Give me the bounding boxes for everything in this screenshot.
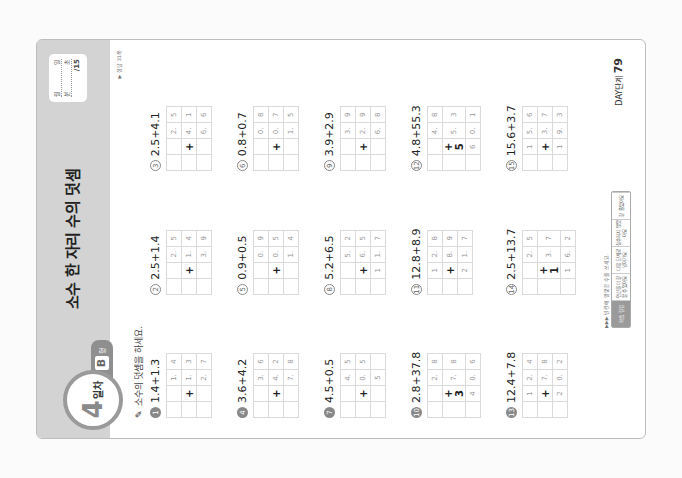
answer-cell[interactable]: 1 [371, 262, 386, 278]
answer-cell[interactable] [197, 262, 212, 278]
answer-cell[interactable]: 5 [284, 107, 299, 123]
vertical-addition-grid: 4.5+0.55 [340, 353, 386, 418]
digit-cell: 4 [167, 354, 182, 370]
answer-cell[interactable] [371, 402, 386, 418]
answer-cell[interactable]: 7 [371, 230, 386, 246]
answer-cell[interactable]: 6 [466, 354, 481, 370]
answer-cell[interactable] [553, 402, 568, 418]
answer-cell[interactable] [197, 278, 212, 294]
answer-cell[interactable] [466, 402, 481, 418]
form-letter: B [95, 356, 109, 370]
digit-cell: 2 [341, 230, 356, 246]
answer-cell[interactable] [371, 354, 386, 370]
answer-cell[interactable] [561, 278, 576, 294]
digit-cell [254, 386, 269, 402]
answer-cell[interactable]: 7 [458, 230, 473, 246]
answer-cell[interactable] [371, 386, 386, 402]
problem-expression: 2.8+37.8 [410, 352, 423, 403]
digit-cell: 8 [443, 354, 466, 370]
problem-15: 1515.6+3.715.6+3.719.3 [505, 48, 576, 171]
digit-cell [428, 386, 443, 402]
digit-cell: + [182, 262, 197, 278]
answer-cell[interactable]: 2 [553, 386, 568, 402]
answer-cell[interactable]: 0. [466, 370, 481, 386]
answer-cell[interactable] [284, 278, 299, 294]
answer-cell[interactable] [284, 386, 299, 402]
answer-cell[interactable] [197, 155, 212, 171]
problem-expression: 3.9+2.9 [323, 112, 336, 156]
score-box: 월일 분초 /15 [49, 54, 87, 102]
digit-cell [182, 155, 197, 171]
digit-cell [341, 155, 356, 171]
answer-cell[interactable]: 3. [197, 246, 212, 262]
problem-number-badge: 13 [506, 407, 517, 418]
answer-cell[interactable] [284, 139, 299, 155]
digit-cell: + 3 [443, 386, 466, 402]
problem-3: 32.5+4.12.5+4.16.6 [149, 48, 212, 171]
answer-cell[interactable] [371, 155, 386, 171]
answer-cell[interactable]: 1 [553, 139, 568, 155]
answer-cell[interactable]: 1 [466, 107, 481, 123]
problem-header: 1515.6+3.7 [505, 48, 518, 171]
answer-cell[interactable]: 1. [284, 246, 299, 262]
answer-cell[interactable]: 8 [284, 354, 299, 370]
problem-header: 60.8+0.7 [236, 48, 249, 171]
answer-cell[interactable]: 1. [458, 246, 473, 262]
answer-cell[interactable] [197, 402, 212, 418]
answer-cell[interactable]: 9 [197, 230, 212, 246]
digit-cell [538, 402, 553, 418]
answer-cell[interactable]: 3 [553, 107, 568, 123]
answer-cell[interactable] [553, 155, 568, 171]
self-check-option[interactable]: 다음 단계로 넘어가요 [612, 246, 630, 273]
problem-expression: 0.8+0.7 [236, 112, 249, 156]
answer-cell[interactable]: 6. [561, 246, 576, 262]
answer-cell[interactable]: 1. [371, 246, 386, 262]
answer-cell[interactable] [284, 155, 299, 171]
answer-cell[interactable]: 7 [197, 354, 212, 370]
answer-cell[interactable]: 1 [561, 262, 576, 278]
answer-cell[interactable] [284, 402, 299, 418]
answer-cell[interactable] [371, 139, 386, 155]
digit-cell: 9 [356, 107, 371, 123]
digit-cell: 2. [523, 246, 538, 262]
self-check-option[interactable]: 잘 풀었어요 [612, 192, 630, 219]
answer-cell[interactable] [284, 262, 299, 278]
answer-cell[interactable]: 2 [458, 262, 473, 278]
problem-header: 85.2+6.5 [323, 171, 336, 294]
self-check-option[interactable]: 실수하지 않았어요 [612, 219, 630, 246]
answer-cell[interactable]: 7. [284, 370, 299, 386]
answer-cell[interactable] [197, 386, 212, 402]
answer-cell[interactable]: 2 [561, 230, 576, 246]
answer-cell[interactable]: 6 [197, 107, 212, 123]
digit-cell [443, 155, 466, 171]
digit-cell: 7 [538, 107, 553, 123]
answer-cell[interactable]: 1. [284, 123, 299, 139]
answer-cell[interactable]: 6 [466, 139, 481, 155]
answer-cell[interactable]: 6. [197, 123, 212, 139]
answer-cell[interactable]: 4 [466, 386, 481, 402]
digit-cell [182, 402, 197, 418]
answer-cell[interactable]: 6. [371, 123, 386, 139]
footer-note: ▶▶▶ 빈칸에 알맞은 수를 쓰세요. [602, 191, 609, 328]
answer-cell[interactable] [458, 278, 473, 294]
problem-number-badge: 4 [237, 407, 248, 418]
digit-cell: 9 [443, 230, 458, 246]
answer-cell[interactable] [466, 155, 481, 171]
answer-cell[interactable] [371, 278, 386, 294]
answer-cell[interactable]: 0. [553, 370, 568, 386]
page-number: DAY단계 79 [612, 58, 625, 106]
digit-cell [356, 278, 371, 294]
answer-cell[interactable]: 0. [466, 123, 481, 139]
answer-cell[interactable]: 2 [553, 354, 568, 370]
digit-cell: 5 [523, 230, 538, 246]
answer-cell[interactable] [197, 139, 212, 155]
answer-cell[interactable]: 9. [553, 123, 568, 139]
answer-cell[interactable]: 4 [284, 230, 299, 246]
problem-header: 50.9+0.5 [236, 171, 249, 294]
score-day: 일 [52, 59, 61, 65]
answer-cell[interactable]: 8 [371, 107, 386, 123]
answer-cell[interactable]: 2. [197, 370, 212, 386]
vertical-addition-grid: 0.8+0.71.5 [253, 106, 299, 171]
answer-cell[interactable]: 5 [371, 370, 386, 386]
self-check-option[interactable]: 연산을 더 잘 할 수 있어요 [612, 273, 630, 300]
